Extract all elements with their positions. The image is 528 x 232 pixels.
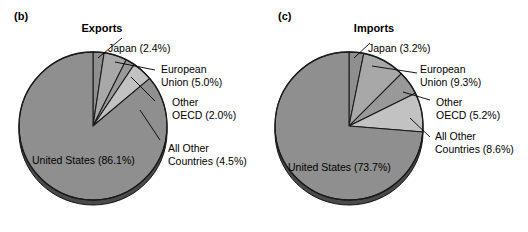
label-european-union-line1-exports: European: [161, 63, 207, 76]
label-other-oecd-line1-imports: Other: [436, 96, 462, 109]
label-united-states-imports: United States (73.7%): [288, 161, 391, 174]
label-all-other-line2-imports: Countries (8.6%): [435, 143, 514, 156]
panel-imports: (c) Imports Japan (3.2%): [264, 0, 528, 232]
label-other-oecd-line2-imports: OECD (5.2%): [436, 109, 500, 122]
label-european-union-line1-imports: European: [420, 63, 466, 76]
label-european-union-line2-exports: Union (5.0%): [161, 76, 222, 89]
panel-exports: (b) Exports Japan (2.4%): [0, 0, 264, 232]
label-other-oecd-line2-exports: OECD (2.0%): [172, 109, 236, 122]
label-european-union-line2-imports: Union (9.3%): [420, 76, 481, 89]
label-united-states-exports: United States (86.1%): [32, 154, 135, 167]
label-japan-exports: Japan (2.4%): [108, 42, 170, 55]
label-all-other-line1-imports: All Other: [435, 130, 476, 143]
label-japan-imports: Japan (3.2%): [368, 42, 430, 55]
figure-two-pie-charts: (b) Exports Japan (2.4%): [0, 0, 528, 232]
label-other-oecd-line1-exports: Other: [172, 96, 198, 109]
label-all-other-line2-exports: Countries (4.5%): [168, 155, 247, 168]
label-all-other-line1-exports: All Other: [168, 142, 209, 155]
